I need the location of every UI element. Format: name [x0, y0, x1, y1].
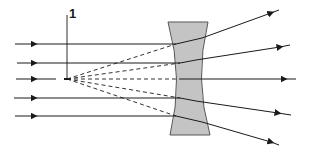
virtual-ray-2 [67, 63, 180, 79]
virtual-ray-1 [67, 44, 176, 79]
virtual-ray-4 [67, 79, 180, 98]
outgoing-ray-1 [202, 13, 271, 38]
outgoing-ray-4 [196, 101, 278, 113]
focal-point-label: 1 [69, 6, 76, 21]
virtual-rays [67, 44, 180, 116]
outgoing-ray-5 [202, 122, 271, 142]
outgoing-rays [196, 10, 296, 145]
incoming-rays [14, 44, 180, 116]
outgoing-ray-2 [196, 47, 280, 60]
diverging-lens-diagram [0, 0, 316, 153]
